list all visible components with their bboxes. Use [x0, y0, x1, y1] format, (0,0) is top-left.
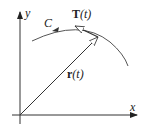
tangent-label-bold: T: [72, 7, 80, 21]
position-label: r(t): [67, 67, 84, 81]
position-vector-r: [20, 37, 98, 115]
diagram-canvas: y x C T(t) r(t): [0, 0, 146, 132]
x-axis-label: x: [129, 100, 136, 114]
curve-c: [32, 30, 128, 66]
curve-direction-arrow-icon: [52, 27, 59, 32]
curve-label: C: [44, 16, 53, 30]
y-axis-label: y: [24, 6, 31, 20]
tangent-label: T(t): [72, 7, 91, 21]
tangent-label-arg: (t): [80, 7, 91, 21]
tangent-vector-t: [75, 26, 98, 37]
position-label-arg: (t): [72, 67, 83, 81]
